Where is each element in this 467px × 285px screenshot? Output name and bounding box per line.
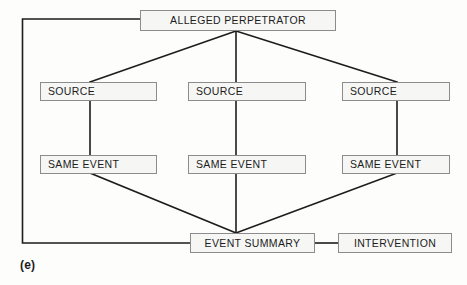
edge-alleged-perpetrator-to-source-left	[90, 31, 236, 82]
node-alleged-perpetrator: ALLEGED PERPETRATOR	[140, 10, 336, 31]
node-same-event-right: SAME EVENT	[342, 155, 450, 174]
node-source-right: SOURCE	[342, 82, 450, 101]
edge-event-summary-to-alleged-perpetrator	[23, 19, 191, 243]
edge-same-event-right-to-event-summary	[236, 173, 397, 233]
edge-alleged-perpetrator-to-source-right	[236, 31, 397, 82]
node-intervention: INTERVENTION	[338, 233, 452, 253]
node-same-event-center: SAME EVENT	[188, 155, 306, 174]
edge-same-event-left-to-event-summary	[90, 173, 236, 233]
node-source-center: SOURCE	[188, 82, 306, 101]
figure-diagram: ALLEGED PERPETRATOR SOURCE SOURCE SOURCE…	[0, 0, 467, 285]
node-event-summary: EVENT SUMMARY	[190, 233, 315, 253]
node-source-left: SOURCE	[40, 82, 157, 101]
node-same-event-left: SAME EVENT	[40, 155, 157, 174]
figure-caption: (e)	[20, 259, 35, 271]
